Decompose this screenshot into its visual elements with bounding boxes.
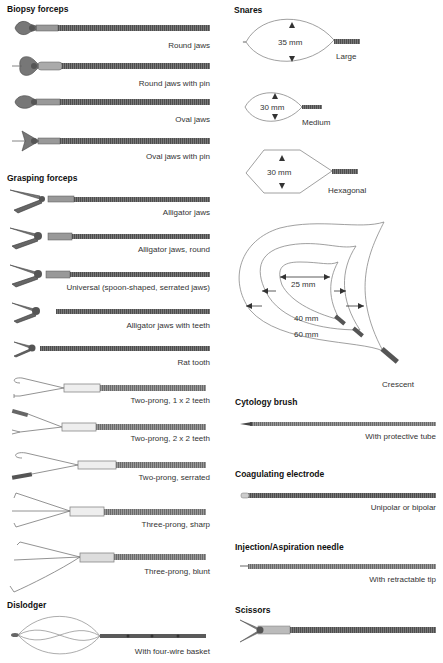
label-with-retractable-tip: With retractable tip	[369, 575, 436, 584]
label-snare-large: Large	[336, 52, 356, 61]
scissors-heading: Scissors	[235, 605, 270, 615]
label-universal: Universal (spoon-shaped, serrated jaws)	[66, 283, 210, 292]
label-oval-jaws: Oval jaws	[175, 115, 210, 124]
label-two-prong-2x2: Two-prong, 2 x 2 teeth	[130, 434, 210, 443]
coagulating-electrode-drawing	[241, 493, 436, 498]
label-snare-crescent: Crescent	[382, 380, 414, 389]
snare-crescent-dimension-40: 40 mm	[294, 314, 318, 323]
grasping-forceps-heading: Grasping forceps	[7, 173, 77, 183]
biopsy-forceps-oval-jaws-pin-drawing	[12, 131, 210, 151]
biopsy-forceps-round-jaws-drawing	[15, 21, 210, 34]
dislodger-heading: Dislodger	[7, 600, 46, 610]
snare-hexagonal-dimension: 30 mm	[267, 168, 291, 177]
label-four-wire-basket: With four-wire basket	[135, 647, 210, 656]
label-rat-tooth: Rat tooth	[178, 358, 210, 367]
label-snare-medium: Medium	[302, 118, 330, 127]
scissors-drawing	[240, 620, 436, 642]
instrument-drawings	[0, 0, 443, 663]
cytology-brush-heading: Cytology brush	[235, 397, 297, 407]
label-with-protective-tube: With protective tube	[365, 432, 436, 441]
biopsy-forceps-round-jaws-pin-drawing	[12, 57, 210, 76]
biopsy-forceps-oval-jaws-drawing	[15, 96, 210, 109]
snares-heading: Snares	[234, 5, 262, 15]
cytology-brush-drawing	[240, 422, 436, 426]
grasping-forceps-two-prong-2x2-drawing	[12, 409, 206, 434]
label-three-prong-blunt: Three-prong, blunt	[144, 567, 210, 576]
label-three-prong-sharp: Three-prong, sharp	[142, 520, 210, 529]
grasping-forceps-two-prong-1x2-drawing	[14, 378, 206, 398]
snare-crescent-dimension-25: 25 mm	[291, 280, 315, 289]
injection-needle-drawing	[240, 564, 436, 569]
injection-needle-heading: Injection/Aspiration needle	[235, 542, 344, 552]
label-alligator-jaws-with-teeth: Alligator jaws with teeth	[126, 321, 210, 330]
snare-medium-dimension: 30 mm	[260, 103, 284, 112]
label-two-prong-1x2: Two-prong, 1 x 2 teeth	[130, 396, 210, 405]
biopsy-forceps-heading: Biopsy forceps	[7, 4, 68, 14]
label-round-jaws-with-pin: Round jaws with pin	[139, 79, 210, 88]
snare-large-dimension: 35 mm	[278, 38, 302, 47]
grasping-forceps-rat-tooth-drawing	[14, 342, 210, 357]
grasping-forceps-alligator-teeth-drawing	[12, 303, 210, 323]
label-two-prong-serrated: Two-prong, serrated	[138, 473, 210, 482]
label-oval-jaws-with-pin: Oval jaws with pin	[146, 152, 210, 161]
label-snare-hexagonal: Hexagonal	[328, 186, 366, 195]
label-unipolar-or-bipolar: Unipolar or bipolar	[371, 503, 436, 512]
label-round-jaws: Round jaws	[168, 41, 210, 50]
snare-crescent-drawing	[239, 222, 399, 364]
snare-crescent-dimension-60: 60 mm	[294, 330, 318, 339]
label-alligator-jaws: Alligator jaws	[163, 208, 210, 217]
label-alligator-jaws-round: Alligator jaws, round	[138, 245, 210, 254]
coagulating-electrode-heading: Coagulating electrode	[235, 469, 324, 479]
